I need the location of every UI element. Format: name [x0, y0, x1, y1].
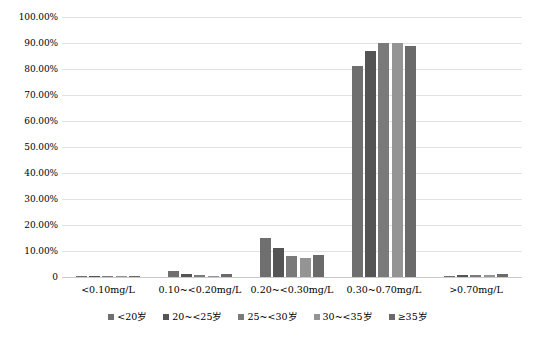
bar-group: [168, 17, 232, 277]
y-axis-tick-label: 90.00%: [0, 39, 58, 48]
bar: [484, 275, 495, 277]
x-axis-tick-label: <0.10mg/L: [62, 284, 154, 296]
legend-item[interactable]: ≥35岁: [389, 311, 428, 322]
legend-label: 30~<35岁: [323, 311, 373, 322]
legend-swatch-icon: [238, 314, 244, 320]
bar: [365, 51, 376, 277]
legend-item[interactable]: 20~<25岁: [163, 311, 222, 322]
bar: [352, 66, 363, 277]
y-axis-tick-label: 100.00%: [0, 13, 58, 22]
y-axis-tick-label: 50.00%: [0, 143, 58, 152]
bar: [444, 276, 455, 277]
bar: [181, 274, 192, 277]
bar: [102, 276, 113, 277]
bar-chart: 100.00%90.00%80.00%70.00%60.00%50.00%40.…: [0, 0, 536, 340]
x-axis-tick-label: >0.70mg/L: [430, 284, 522, 296]
bar-group: [444, 17, 508, 277]
legend-item[interactable]: 30~<35岁: [314, 311, 373, 322]
y-axis-tick-label: 10.00%: [0, 247, 58, 256]
bar-group: [260, 17, 324, 277]
legend-swatch-icon: [389, 314, 395, 320]
bar: [470, 275, 481, 277]
bar: [129, 276, 140, 277]
y-axis-tick-label: 60.00%: [0, 117, 58, 126]
bar: [260, 238, 271, 277]
bar: [116, 276, 127, 277]
bar: [221, 274, 232, 277]
bar: [168, 271, 179, 278]
bar: [392, 43, 403, 277]
bar: [405, 46, 416, 277]
x-axis-tick-label: 0.20~<0.30mg/L: [246, 284, 338, 296]
bar: [457, 275, 468, 277]
legend-swatch-icon: [108, 314, 114, 320]
gridline: [62, 277, 522, 278]
bar: [208, 276, 219, 277]
y-axis-tick-label: 20.00%: [0, 221, 58, 230]
y-axis-tick-label: 0: [0, 273, 58, 282]
y-axis-tick-label: 40.00%: [0, 169, 58, 178]
legend-label: ≥35岁: [398, 311, 428, 322]
legend-item[interactable]: <20岁: [108, 311, 147, 322]
bar: [286, 256, 297, 277]
legend-label: <20岁: [117, 311, 147, 322]
bar: [497, 274, 508, 277]
y-axis-tick-label: 30.00%: [0, 195, 58, 204]
bar: [300, 258, 311, 278]
x-axis-tick-label: 0.10~<0.20mg/L: [154, 284, 246, 296]
bar: [378, 43, 389, 277]
y-axis: 100.00%90.00%80.00%70.00%60.00%50.00%40.…: [0, 0, 58, 300]
bars-layer: [62, 17, 522, 277]
y-axis-tick-label: 80.00%: [0, 65, 58, 74]
bar: [76, 276, 87, 277]
bar: [273, 248, 284, 277]
x-axis-tick-label: 0.30~0.70mg/L: [338, 284, 430, 296]
legend-item[interactable]: 25~<30岁: [238, 311, 297, 322]
legend-label: 25~<30岁: [247, 311, 297, 322]
bar: [313, 255, 324, 277]
bar-group: [352, 17, 416, 277]
bar: [194, 275, 205, 277]
legend-label: 20~<25岁: [172, 311, 222, 322]
chart-legend: <20岁20~<25岁25~<30岁30~<35岁≥35岁: [0, 311, 536, 322]
bar: [89, 276, 100, 277]
legend-swatch-icon: [163, 314, 169, 320]
bar-group: [76, 17, 140, 277]
x-axis: <0.10mg/L0.10~<0.20mg/L0.20~<0.30mg/L0.3…: [62, 284, 522, 300]
y-axis-tick-label: 70.00%: [0, 91, 58, 100]
legend-swatch-icon: [314, 314, 320, 320]
